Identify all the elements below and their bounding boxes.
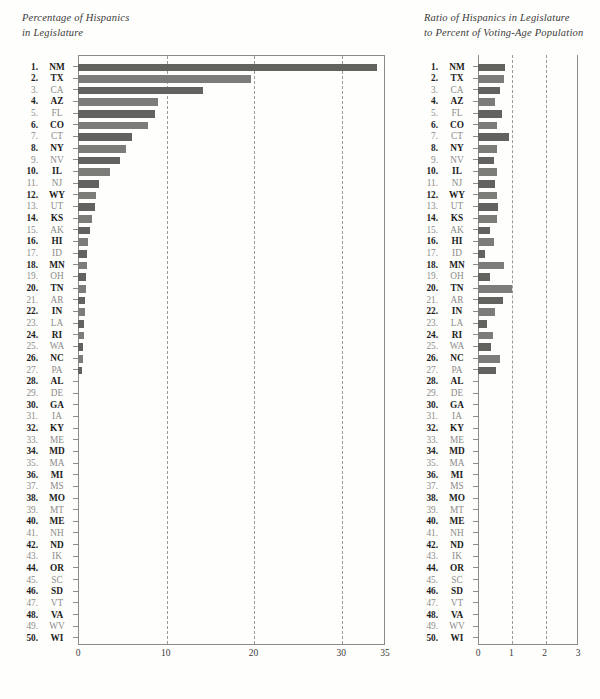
- bar-row: [478, 260, 578, 272]
- bar-row: [478, 575, 578, 587]
- bar-right-ca: [478, 87, 500, 95]
- bar-row: [78, 108, 385, 120]
- row-label-right-fl: 5.FL: [400, 108, 478, 120]
- row-state-abbrev: AK: [444, 225, 470, 237]
- bar-row: [78, 423, 385, 435]
- row-state-abbrev: NM: [44, 62, 70, 74]
- bar-row: [78, 528, 385, 540]
- row-label-left-mi: 36.MI: [0, 470, 78, 482]
- row-label-left-mt: 39.MT: [0, 505, 78, 517]
- bar-left-ct: [78, 133, 132, 141]
- bar-row: [78, 481, 385, 493]
- row-label-left-nc: 26.NC: [0, 353, 78, 365]
- row-rank: 41.: [26, 528, 38, 540]
- row-rank: 35.: [426, 458, 438, 470]
- row-label-left-fl: 5.FL: [0, 108, 78, 120]
- row-label-left-wi: 50.WI: [0, 633, 78, 645]
- bar-left-tx: [78, 75, 251, 83]
- bar-left-pa: [78, 367, 82, 375]
- row-state-abbrev: VA: [444, 610, 470, 622]
- row-state-abbrev: DE: [44, 388, 70, 400]
- row-label-right-mt: 39.MT: [400, 505, 478, 517]
- row-label-left-co: 6.CO: [0, 120, 78, 132]
- right-row-labels: 1.NM2.TX3.CA4.AZ5.FL6.CO7.CT8.NY9.NV10.I…: [400, 55, 478, 645]
- row-rank: 36.: [26, 470, 38, 482]
- bar-row: [478, 493, 578, 505]
- row-label-left-ri: 24.RI: [0, 330, 78, 342]
- bar-left-id: [78, 250, 87, 258]
- row-rank: 13.: [26, 201, 38, 213]
- row-rank: 3.: [31, 85, 38, 97]
- row-state-abbrev: CT: [444, 131, 470, 143]
- row-rank: 33.: [26, 435, 38, 447]
- bar-right-ar: [478, 297, 503, 305]
- row-rank: 8.: [31, 143, 38, 155]
- row-rank: 42.: [426, 540, 438, 552]
- row-label-right-pa: 27.PA: [400, 365, 478, 377]
- row-label-right-or: 44.OR: [400, 563, 478, 575]
- row-rank: 47.: [26, 598, 38, 610]
- row-label-left-va: 48.VA: [0, 610, 78, 622]
- bar-right-nv: [478, 157, 494, 165]
- row-state-abbrev: NJ: [44, 178, 70, 190]
- row-state-abbrev: NC: [444, 353, 470, 365]
- bar-row: [478, 411, 578, 423]
- row-state-abbrev: NV: [44, 155, 70, 167]
- row-rank: 37.: [26, 481, 38, 493]
- row-rank: 27.: [426, 365, 438, 377]
- row-rank: 16.: [426, 236, 438, 248]
- row-label-right-co: 6.CO: [400, 120, 478, 132]
- row-label-right-ct: 7.CT: [400, 131, 478, 143]
- row-label-right-ks: 14.KS: [400, 213, 478, 225]
- row-state-abbrev: KY: [444, 423, 470, 435]
- bar-row: [478, 435, 578, 447]
- row-state-abbrev: NH: [44, 528, 70, 540]
- row-label-right-wv: 49.WV: [400, 621, 478, 633]
- row-state-abbrev: SC: [44, 575, 70, 587]
- row-label-right-ny: 8.NY: [400, 143, 478, 155]
- bar-row: [478, 318, 578, 330]
- bar-row: [78, 306, 385, 318]
- bar-row: [478, 330, 578, 342]
- bar-row: [478, 505, 578, 517]
- row-label-right-wa: 25.WA: [400, 341, 478, 353]
- row-label-left-tn: 20.TN: [0, 283, 78, 295]
- row-state-abbrev: PA: [44, 365, 70, 377]
- bar-right-ks: [478, 215, 497, 223]
- bar-row: [78, 178, 385, 190]
- bar-row: [78, 96, 385, 108]
- row-label-right-mo: 38.MO: [400, 493, 478, 505]
- row-state-abbrev: NJ: [444, 178, 470, 190]
- row-rank: 12.: [426, 190, 438, 202]
- row-state-abbrev: TX: [44, 73, 70, 85]
- row-rank: 29.: [26, 388, 38, 400]
- row-rank: 19.: [26, 271, 38, 283]
- row-rank: 34.: [426, 446, 438, 458]
- row-label-right-nv: 9.NV: [400, 155, 478, 167]
- left-row-labels: 1.NM2.TX3.CA4.AZ5.FL6.CO7.CT8.NY9.NV10.I…: [0, 55, 78, 645]
- row-rank: 6.: [31, 120, 38, 132]
- bar-row: [478, 120, 578, 132]
- bar-right-wy: [478, 192, 497, 200]
- bar-row: [78, 120, 385, 132]
- row-state-abbrev: IA: [44, 411, 70, 423]
- bar-row: [78, 283, 385, 295]
- row-state-abbrev: FL: [444, 108, 470, 120]
- row-state-abbrev: AZ: [444, 96, 470, 108]
- bar-row: [478, 283, 578, 295]
- row-state-abbrev: MT: [444, 505, 470, 517]
- bar-row: [78, 435, 385, 447]
- row-rank: 42.: [26, 540, 38, 552]
- bar-row: [478, 248, 578, 260]
- row-state-abbrev: IN: [444, 306, 470, 318]
- axis-tick-label-20: 20: [249, 648, 259, 658]
- row-state-abbrev: MA: [44, 458, 70, 470]
- row-rank: 22.: [426, 306, 438, 318]
- row-rank: 22.: [26, 306, 38, 318]
- right-chart-title: Ratio of Hispanics in Legislature to Per…: [424, 10, 583, 40]
- row-state-abbrev: CA: [444, 85, 470, 97]
- bar-row: [78, 446, 385, 458]
- row-rank: 44.: [426, 563, 438, 575]
- bar-row: [78, 633, 385, 645]
- row-label-right-la: 23.LA: [400, 318, 478, 330]
